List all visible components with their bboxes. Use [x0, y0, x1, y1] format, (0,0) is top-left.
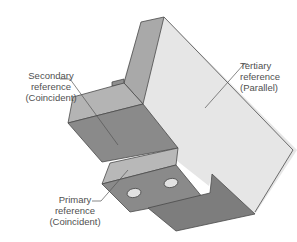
- primary-reference-label: Primary reference (Coincident): [40, 194, 110, 227]
- tertiary-label-line1: Tertiary: [240, 60, 296, 71]
- primary-label-line2: reference: [40, 205, 110, 216]
- primary-label-line1: Primary: [40, 194, 110, 205]
- tertiary-label-line2: reference: [240, 71, 296, 82]
- secondary-label-line1: Secondary: [14, 70, 88, 81]
- secondary-label-line2: reference: [14, 81, 88, 92]
- secondary-label-line3: (Coincident): [14, 92, 88, 103]
- secondary-reference-label: Secondary reference (Coincident): [14, 70, 88, 103]
- tertiary-reference-label: Tertiary reference (Parallel): [240, 60, 296, 93]
- tertiary-label-line3: (Parallel): [240, 82, 296, 93]
- primary-label-line3: (Coincident): [40, 216, 110, 227]
